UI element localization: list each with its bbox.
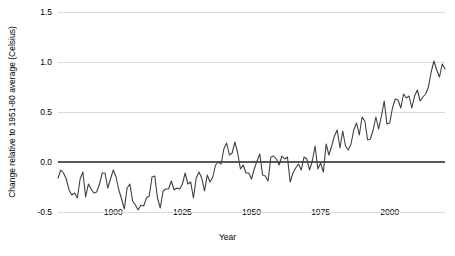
x-axis-title: Year: [0, 232, 455, 242]
plot-area: [0, 0, 455, 256]
temperature-anomaly-chart: Change relative to 1951-80 average (Cels…: [0, 0, 455, 256]
temperature-anomaly-line: [58, 61, 445, 210]
